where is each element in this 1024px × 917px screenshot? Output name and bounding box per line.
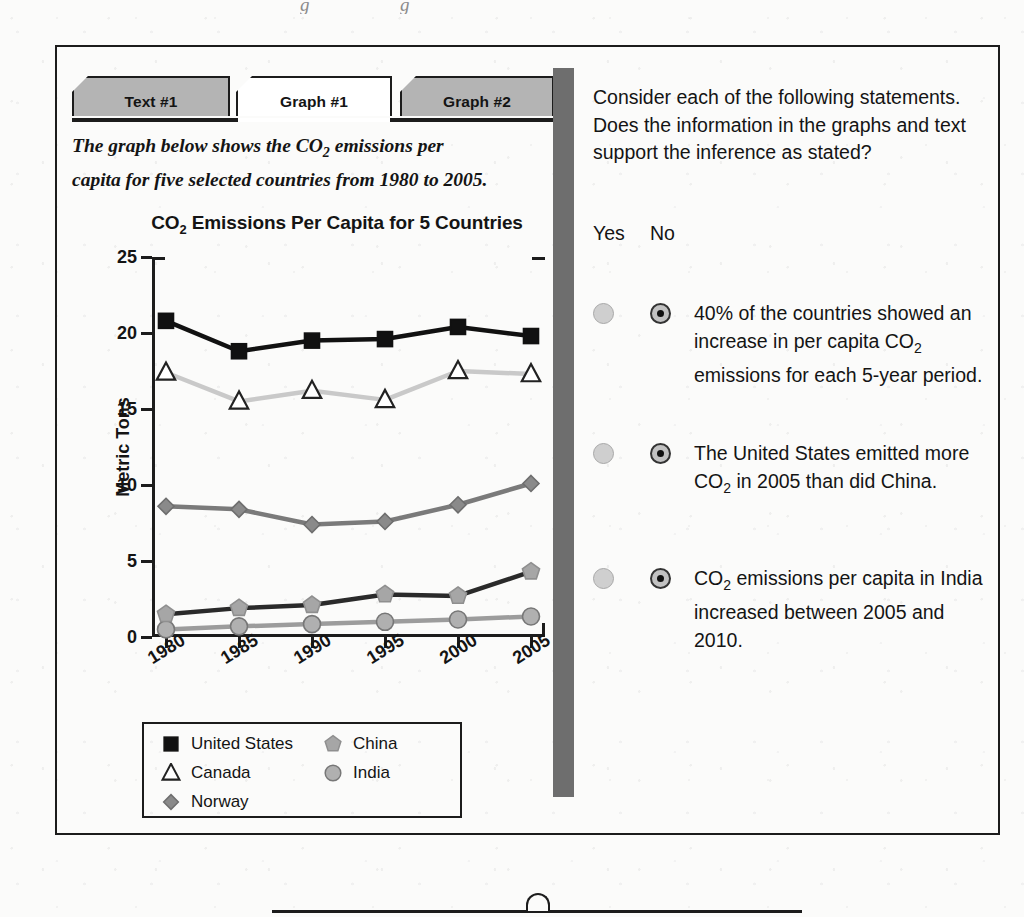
legend-label: Norway <box>191 792 249 812</box>
data-point <box>158 498 174 514</box>
triangle-marker-icon <box>160 763 182 783</box>
subscript: 2 <box>723 479 731 495</box>
series-line <box>166 321 531 351</box>
circle-marker-icon <box>322 763 344 783</box>
tab-label: Graph #2 <box>443 93 511 111</box>
data-point <box>157 605 174 621</box>
data-point <box>523 475 539 491</box>
y-axis-tick-label: 20 <box>117 323 137 344</box>
statement-text: CO2 emissions per capita in India increa… <box>694 565 983 654</box>
radio-yes[interactable] <box>593 303 614 324</box>
statement-row: 40% of the countries showed an increase … <box>593 300 983 389</box>
series-india <box>158 608 540 638</box>
series-line <box>166 483 531 524</box>
radio-no[interactable] <box>650 568 671 589</box>
square-marker-icon <box>160 734 182 754</box>
y-axis-tick-label: 25 <box>117 247 137 268</box>
data-point <box>304 616 321 633</box>
y-axis-tick-label: 5 <box>127 551 137 572</box>
tab-label: Text #1 <box>125 93 178 111</box>
series-line <box>166 572 531 615</box>
statement-text: The United States emitted more CO2 in 20… <box>694 440 983 502</box>
data-point <box>230 599 247 615</box>
yes-column-label: Yes <box>593 222 625 245</box>
data-point <box>524 329 539 344</box>
legend-label: India <box>353 763 390 783</box>
y-axis-tick-label: 10 <box>117 475 137 496</box>
line-chart: Metric Tons 0510152025198019851990199520… <box>152 257 545 637</box>
series-line <box>166 371 531 401</box>
legend-item-norway: Norway <box>160 792 249 812</box>
data-point <box>231 618 248 635</box>
data-point <box>232 344 247 359</box>
legend-item-china: China <box>322 734 397 754</box>
diamond-marker-icon <box>160 792 182 812</box>
pentagon-marker-icon <box>322 734 344 754</box>
legend-item-canada: Canada <box>160 763 251 783</box>
tab-strip: Text #1Graph #1Graph #2 <box>72 76 554 120</box>
question-prompt: Consider each of the following statement… <box>593 84 973 167</box>
data-point <box>158 621 175 638</box>
legend-item-india: India <box>322 763 390 783</box>
y-axis-tick <box>141 332 152 335</box>
no-column-label: No <box>650 222 675 245</box>
data-point <box>378 332 393 347</box>
intro-line2: capita for five selected countries from … <box>72 169 487 190</box>
chart-title: CO2 Emissions Per Capita for 5 Countries <box>122 212 552 237</box>
chart-legend: United StatesCanadaNorwayChinaIndia <box>142 722 462 818</box>
statement-row: The United States emitted more CO2 in 20… <box>593 440 983 502</box>
chart-title-subscript: 2 <box>179 222 186 237</box>
data-point <box>377 513 393 529</box>
y-axis-tick <box>141 408 152 411</box>
data-point <box>304 517 320 533</box>
page-top-ghost-text-left: g <box>300 0 310 14</box>
data-point <box>231 501 247 517</box>
intro-line1-a: The graph below shows the CO <box>72 135 323 156</box>
data-point <box>522 563 539 579</box>
legend-label: Canada <box>191 763 251 783</box>
radio-no[interactable] <box>650 303 671 324</box>
y-axis-tick <box>141 256 152 259</box>
intro-line1-subscript: 2 <box>323 144 330 160</box>
data-point <box>376 585 393 601</box>
data-point <box>305 333 320 348</box>
y-axis-tick <box>141 484 152 487</box>
chart-title-a: CO <box>151 212 179 233</box>
y-axis-tick <box>141 636 152 639</box>
data-point <box>523 608 540 625</box>
radio-yes[interactable] <box>593 568 614 589</box>
tab-text-1[interactable]: Text #1 <box>72 76 230 116</box>
series-canada <box>157 361 540 409</box>
y-axis-tick-label: 15 <box>117 399 137 420</box>
data-point <box>377 613 394 630</box>
legend-label: China <box>353 734 397 754</box>
chart-title-b: Emissions Per Capita for 5 Countries <box>187 212 523 233</box>
series-china <box>157 563 539 622</box>
data-point <box>303 596 320 612</box>
y-axis-tick-label: 0 <box>127 627 137 648</box>
plot-series-svg <box>152 257 545 637</box>
data-point <box>450 497 466 513</box>
statement-row: CO2 emissions per capita in India increa… <box>593 565 983 654</box>
series-norway <box>158 475 539 532</box>
radio-yes[interactable] <box>593 443 614 464</box>
radio-no[interactable] <box>650 443 671 464</box>
page-bottom-bump-mark <box>526 893 550 911</box>
active-tab-underline-gap <box>238 118 390 122</box>
subscript: 2 <box>914 339 922 355</box>
series-united-states <box>159 313 539 358</box>
data-point <box>449 587 466 603</box>
legend-item-united-states: United States <box>160 734 293 754</box>
page-top-ghost-text-right: g <box>400 0 410 14</box>
statement-text: 40% of the countries showed an increase … <box>694 300 983 389</box>
tab-label: Graph #1 <box>280 93 348 111</box>
intro-paragraph: The graph below shows the CO2 emissions … <box>72 132 542 193</box>
tab-graph-2[interactable]: Graph #2 <box>400 76 554 116</box>
tab-graph-1[interactable]: Graph #1 <box>236 76 392 116</box>
legend-label: United States <box>191 734 293 754</box>
data-point <box>157 363 175 380</box>
tab-underline <box>72 118 554 122</box>
y-axis-tick <box>141 560 152 563</box>
data-point <box>159 313 174 328</box>
data-point <box>450 611 467 628</box>
